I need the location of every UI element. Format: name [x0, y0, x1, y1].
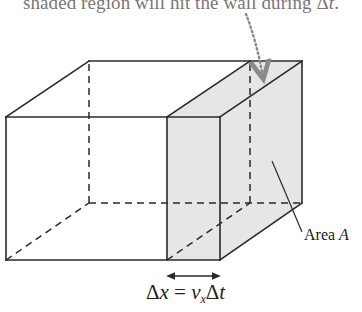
- top-left-diagonal: [6, 61, 89, 117]
- area-label: Area A: [304, 226, 349, 244]
- displacement-equation: Δx = vxΔt: [146, 280, 225, 307]
- shaded-front-face: [167, 117, 220, 260]
- box-diagram: [0, 0, 362, 312]
- shaded-region: [167, 61, 302, 260]
- bottom-left-diagonal-hidden: [6, 203, 89, 260]
